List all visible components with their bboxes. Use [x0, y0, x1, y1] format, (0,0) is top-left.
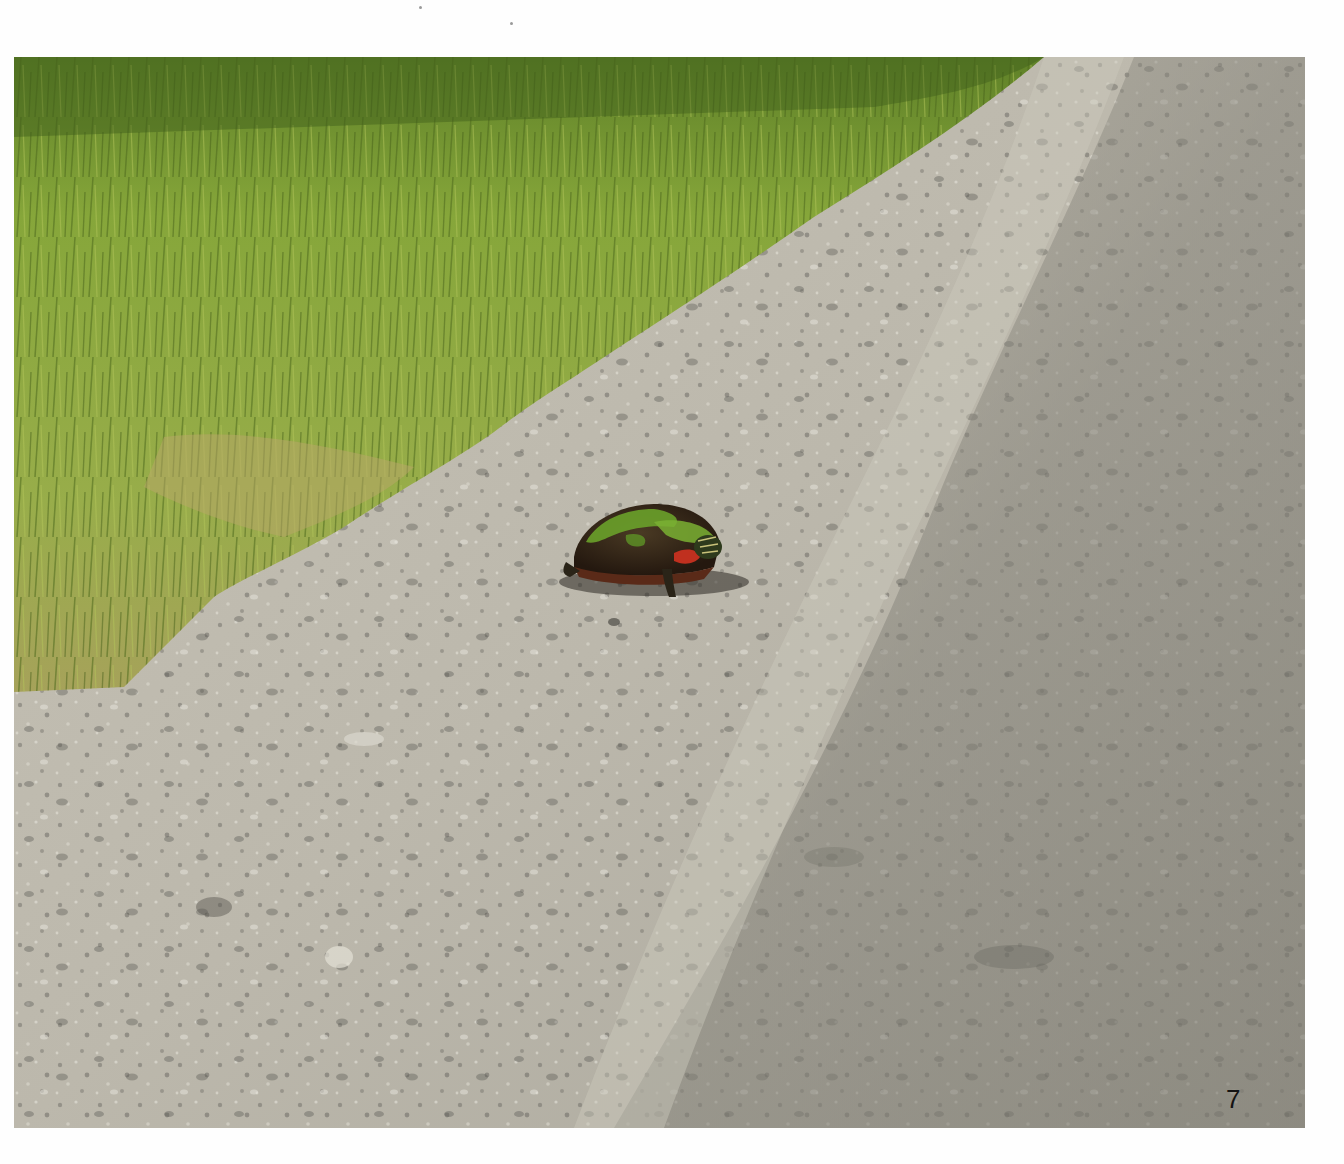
- dust-speck: [419, 6, 422, 9]
- photo-scene: [14, 57, 1305, 1128]
- turtle-photo: [14, 57, 1305, 1128]
- page-number: 7: [1226, 1086, 1240, 1112]
- book-page: 7: [0, 0, 1344, 1164]
- dust-speck: [510, 22, 513, 25]
